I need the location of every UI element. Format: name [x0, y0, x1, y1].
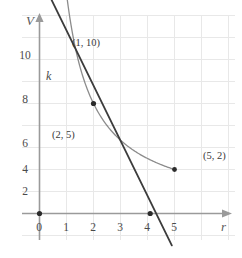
y-axis-label: V: [26, 14, 34, 27]
x-axis-label: r: [221, 220, 226, 233]
grid-horizontal: [22, 16, 235, 236]
x-tick-2: 2: [85, 222, 101, 234]
point-label-5-2: (5, 2): [203, 151, 226, 162]
origin-dot: [37, 211, 42, 216]
y-axis: [35, 13, 43, 240]
tangent-line-label: k: [46, 70, 51, 82]
point-label-1-10: (1, 10): [72, 38, 100, 49]
plot-canvas: [0, 0, 242, 258]
y-tick-8: 8: [17, 94, 33, 106]
x-axis: [22, 209, 232, 217]
x-tick-4: 4: [139, 222, 155, 234]
graph-figure: V r 10 8 6 4 2 0 1 2 3 4 5 (1, 10) (2, 5…: [0, 0, 242, 258]
point-label-2-5: (2, 5): [52, 130, 75, 141]
y-tick-10: 10: [17, 50, 33, 62]
x-intercept-dot: [148, 211, 153, 216]
x-tick-1: 1: [58, 222, 74, 234]
y-tick-6: 6: [17, 138, 33, 150]
point-dot-2-5: [91, 101, 96, 106]
x-tick-3: 3: [112, 222, 128, 234]
y-tick-2: 2: [17, 186, 33, 198]
tangent-line: [52, 0, 172, 245]
x-tick-0: 0: [31, 222, 47, 234]
grid-vertical: [40, 15, 229, 240]
x-tick-5: 5: [166, 222, 182, 234]
y-tick-4: 4: [17, 164, 33, 176]
point-dot-5-2: [172, 167, 177, 172]
